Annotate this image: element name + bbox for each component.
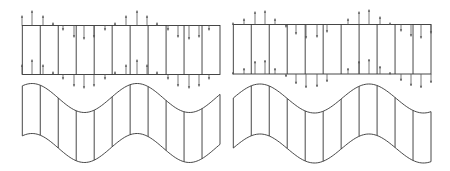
arrow-head-icon — [347, 19, 349, 21]
arrow-head-icon — [400, 79, 402, 81]
panel-left — [21, 11, 220, 163]
arrow-head-icon — [114, 23, 116, 25]
arrow-head-icon — [83, 86, 85, 88]
diagram-svg — [0, 0, 450, 171]
arrow-head-icon — [368, 10, 370, 12]
arrow-head-icon — [93, 84, 95, 86]
arrow-head-icon — [73, 84, 75, 86]
arrow-head-icon — [368, 59, 370, 61]
arrow-head-icon — [104, 28, 106, 30]
arrow-head-icon — [295, 32, 297, 34]
arrow-head-icon — [167, 28, 169, 30]
wave-bottom-edge — [233, 134, 431, 163]
arrow-head-icon — [177, 35, 179, 37]
arrow-head-icon — [430, 31, 432, 33]
arrow-head-icon — [198, 84, 200, 86]
arrow-head-icon — [177, 84, 179, 86]
arrow-head-icon — [379, 66, 381, 68]
arrow-head-icon — [83, 37, 85, 39]
arrow-head-icon — [21, 16, 23, 18]
arrow-head-icon — [167, 77, 169, 79]
arrow-head-icon — [420, 86, 422, 88]
arrow-head-icon — [264, 60, 266, 62]
arrow-head-icon — [243, 19, 245, 21]
arrow-head-icon — [31, 11, 33, 13]
arrow-head-icon — [52, 72, 54, 74]
arrow-head-icon — [316, 85, 318, 87]
arrow-head-icon — [188, 86, 190, 88]
arrow-head-icon — [42, 65, 44, 67]
arrow-head-icon — [125, 65, 127, 67]
arrow-head-icon — [254, 12, 256, 14]
arrow-head-icon — [389, 72, 391, 74]
arrow-head-icon — [208, 28, 210, 30]
arrow-head-icon — [188, 37, 190, 39]
arrow-head-icon — [295, 82, 297, 84]
arrow-head-icon — [208, 77, 210, 79]
arrow-head-icon — [410, 34, 412, 36]
load-arrows-left — [21, 11, 210, 89]
load-arrows-right — [232, 10, 432, 89]
arrow-head-icon — [430, 81, 432, 83]
arrow-head-icon — [358, 61, 360, 63]
arrow-head-icon — [232, 23, 234, 25]
arrow-head-icon — [73, 35, 75, 37]
arrow-head-icon — [326, 30, 328, 32]
arrow-head-icon — [420, 36, 422, 38]
deformed-wave-strip-left — [22, 84, 220, 163]
arrow-head-icon — [21, 65, 23, 67]
arrow-head-icon — [326, 80, 328, 82]
arrow-head-icon — [52, 23, 54, 25]
arrow-head-icon — [243, 68, 245, 70]
arrow-head-icon — [146, 16, 148, 18]
arrow-head-icon — [62, 28, 64, 30]
wave-bottom-edge — [22, 134, 220, 163]
arrow-head-icon — [62, 77, 64, 79]
arrow-head-icon — [136, 11, 138, 13]
wave-top-edge — [22, 84, 220, 113]
deformed-wave-strip-right — [233, 84, 431, 163]
arrow-head-icon — [254, 61, 256, 63]
arrow-head-icon — [198, 35, 200, 37]
arrow-head-icon — [410, 84, 412, 86]
arrow-head-icon — [264, 11, 266, 13]
undeformed-strip-right — [233, 25, 431, 75]
arrow-head-icon — [136, 60, 138, 62]
panel-right — [232, 10, 432, 163]
arrow-head-icon — [347, 68, 349, 70]
arrow-head-icon — [389, 23, 391, 25]
arrow-head-icon — [31, 60, 33, 62]
arrow-head-icon — [114, 72, 116, 74]
arrow-head-icon — [379, 17, 381, 19]
arrow-head-icon — [104, 77, 106, 79]
strip-outline — [233, 25, 431, 75]
arrow-head-icon — [274, 68, 276, 70]
beam-deformation-diagram — [0, 0, 450, 171]
arrow-head-icon — [42, 16, 44, 18]
arrow-head-icon — [125, 16, 127, 18]
arrow-head-icon — [358, 12, 360, 14]
arrow-head-icon — [316, 35, 318, 37]
arrow-head-icon — [274, 19, 276, 21]
arrow-head-icon — [93, 35, 95, 37]
wave-top-edge — [233, 84, 431, 113]
arrow-head-icon — [156, 23, 158, 25]
arrow-head-icon — [156, 72, 158, 74]
arrow-head-icon — [400, 29, 402, 31]
arrow-head-icon — [232, 72, 234, 74]
undeformed-strip-left — [22, 26, 220, 75]
arrow-head-icon — [285, 75, 287, 77]
arrow-head-icon — [305, 86, 307, 88]
strip-outline — [22, 26, 220, 75]
